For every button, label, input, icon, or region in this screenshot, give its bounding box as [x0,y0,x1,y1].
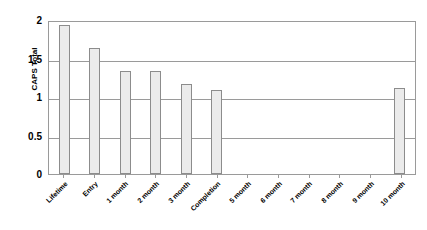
bar-slot [263,22,294,174]
bar-10-month [394,88,405,174]
bar-slot [232,22,263,174]
bar-slot [49,22,80,174]
x-label-entry: Entry [81,180,99,198]
bar-slot [385,22,416,174]
bar-slot [80,22,111,174]
x-label-6-month: 6 month [259,180,284,205]
bar-completion [211,90,222,174]
y-tick-label: 2 [20,16,42,26]
y-tick-label: 1.5 [20,55,42,65]
y-tick-label: 0.5 [20,132,42,142]
bar-lifetime [59,25,70,174]
x-label-9-month: 9 month [351,180,376,205]
y-tick-label: 1 [20,93,42,103]
x-label-5-month: 5 month [228,180,253,205]
x-label-8-month: 8 month [320,180,345,205]
x-label-7-month: 7 month [289,180,314,205]
bar-slot [354,22,385,174]
x-label-2-month: 2 month [136,180,161,205]
bar-slot [324,22,355,174]
bar-3-month [181,84,192,174]
y-tick-label: 0 [20,170,42,180]
bar-slot [171,22,202,174]
bar-entry [89,48,100,174]
bar-slot [202,22,233,174]
bar-2-month [150,71,161,174]
bar-series [49,22,415,174]
x-label-lifetime: Lifetime [44,180,69,205]
bar-slot [293,22,324,174]
x-label-1-month: 1 month [105,180,130,205]
bar-slot [110,22,141,174]
bar-slot [141,22,172,174]
bar-1-month [120,71,131,174]
x-axis-category-labels: Lifetime Entry 1 month 2 month 3 month C… [48,178,416,230]
chart-root: CAPS Total 2 1.5 1 0.5 0 [0,0,427,230]
x-label-3-month: 3 month [167,180,192,205]
y-axis-tick-labels: 2 1.5 1 0.5 0 [20,0,42,230]
plot-area [48,21,416,175]
